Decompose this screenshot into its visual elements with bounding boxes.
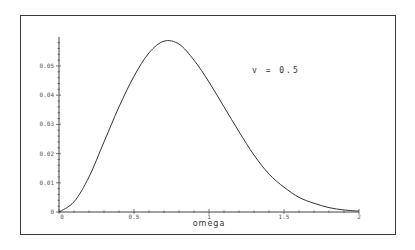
x-tick-label: 0 [60, 213, 64, 220]
annotation-v: v = 0.5 [252, 66, 300, 75]
y-tick-label: 0.04 [40, 91, 55, 98]
x-tick-label: 1.5 [279, 213, 290, 220]
x-tick-label: 0.5 [129, 213, 140, 220]
axes [59, 37, 359, 212]
y-tick-label: 0.03 [40, 120, 55, 127]
ticks [56, 43, 359, 214]
y-tick-label: 0.01 [40, 179, 55, 186]
y-tick-label: 0.05 [40, 62, 55, 69]
x-axis-label: omega [193, 219, 226, 228]
line-chart: 00.511.5200.010.020.030.040.05 omega v =… [0, 0, 415, 250]
tick-labels: 00.511.5200.010.020.030.040.05 [40, 62, 362, 220]
data-curve [59, 41, 359, 212]
y-tick-label: 0.02 [40, 150, 55, 157]
x-tick-label: 2 [357, 213, 361, 220]
y-tick-label: 0 [50, 208, 54, 215]
